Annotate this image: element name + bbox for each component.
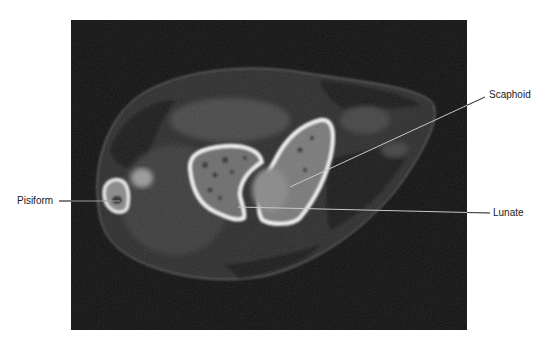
ct-scan-figure: [0, 0, 551, 342]
scaphoid-leader-line-outside: [467, 97, 485, 105]
scaphoid-label: Scaphoid: [489, 89, 531, 101]
lunate-label: Lunate: [493, 207, 524, 219]
scan-noise: [71, 20, 467, 330]
lunate-leader-line-outside: [467, 213, 490, 214]
pisiform-label: Pisiform: [17, 195, 53, 207]
